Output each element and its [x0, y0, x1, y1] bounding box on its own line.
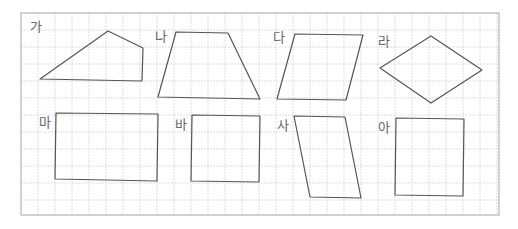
grid-lines: [21, 13, 499, 215]
shape-6: 바: [175, 115, 260, 182]
shape-4: 라: [378, 34, 482, 103]
shape-outline: [191, 115, 260, 182]
shape-label: 라: [378, 34, 390, 49]
shape-outline: [158, 32, 260, 99]
shape-label: 마: [39, 115, 51, 130]
shape-7: 사: [277, 116, 361, 198]
shape-outline: [40, 31, 143, 81]
shape-outline: [395, 118, 464, 196]
shape-label: 가: [30, 19, 42, 34]
grid-border: [21, 13, 499, 215]
shape-outline: [294, 116, 361, 198]
shape-3: 다: [273, 30, 363, 100]
shape-outline: [55, 113, 158, 181]
grid-figure: 가나다라마바사아: [0, 0, 518, 229]
shape-label: 바: [175, 117, 187, 132]
shape-label: 다: [273, 30, 285, 45]
shape-label: 사: [277, 118, 289, 133]
shape-outline: [277, 34, 363, 100]
shape-1: 가: [30, 19, 143, 81]
shape-8: 아: [378, 118, 464, 196]
shapes-group: 가나다라마바사아: [30, 19, 482, 198]
shape-label: 아: [378, 120, 390, 135]
shape-label: 나: [155, 29, 167, 44]
